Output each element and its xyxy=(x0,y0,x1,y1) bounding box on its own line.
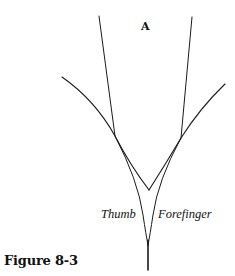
thumb-label: Thumb xyxy=(101,207,136,222)
diagram-canvas xyxy=(0,0,235,276)
panel-label: A xyxy=(141,20,150,33)
forefinger-label: Forefinger xyxy=(158,207,212,222)
right-straight-line xyxy=(181,17,192,138)
forefinger-branch xyxy=(148,138,181,245)
left-straight-line xyxy=(99,16,115,136)
thumb-branch xyxy=(115,136,148,245)
left-outer-curve xyxy=(62,77,149,190)
figure-caption: Figure 8-3 xyxy=(4,253,78,268)
right-outer-curve xyxy=(149,84,225,190)
